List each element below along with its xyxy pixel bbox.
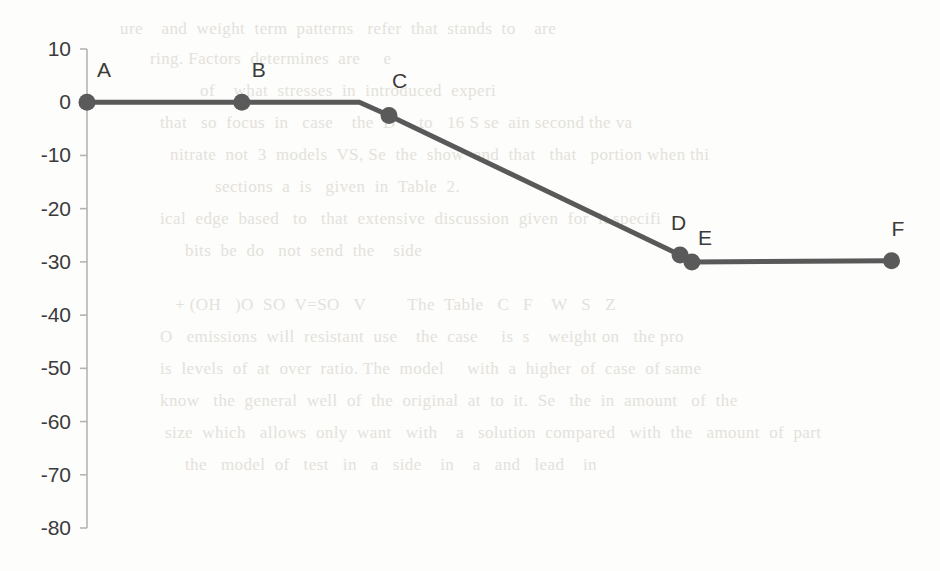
point-label-c: C xyxy=(392,69,407,93)
point-label-b: B xyxy=(252,58,266,82)
line-chart xyxy=(0,0,940,571)
y-axis-tick-label: -70 xyxy=(13,463,71,487)
y-axis-tick-label: 10 xyxy=(13,37,71,61)
point-label-a: A xyxy=(97,58,111,82)
y-axis xyxy=(80,49,87,528)
series-line xyxy=(87,102,892,262)
data-point-marker xyxy=(683,253,700,270)
data-series xyxy=(79,94,901,271)
y-axis-tick-label: -10 xyxy=(13,143,71,167)
y-axis-tick-label: -30 xyxy=(13,250,71,274)
data-point-marker xyxy=(883,252,900,269)
point-label-d: D xyxy=(671,211,686,235)
data-point-marker xyxy=(79,94,96,111)
y-axis-tick-label: -20 xyxy=(13,197,71,221)
data-point-marker xyxy=(233,94,250,111)
y-axis-tick-label: -80 xyxy=(13,516,71,540)
data-point-marker xyxy=(381,107,398,124)
y-axis-tick-label: -60 xyxy=(13,410,71,434)
y-axis-tick-label: 0 xyxy=(13,90,71,114)
point-label-f: F xyxy=(892,217,905,241)
point-label-e: E xyxy=(698,226,712,250)
y-axis-tick-label: -50 xyxy=(13,356,71,380)
y-axis-tick-label: -40 xyxy=(13,303,71,327)
chart-page: ure and weight term patterns refer that … xyxy=(0,0,940,571)
